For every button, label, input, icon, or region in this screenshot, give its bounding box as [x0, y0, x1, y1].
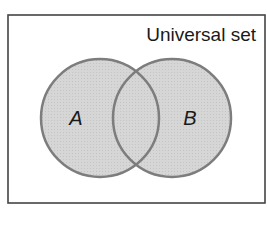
set-b-label: B — [183, 107, 196, 129]
set-a-label: A — [68, 107, 82, 129]
universal-set-label: Universal set — [146, 24, 257, 45]
venn-diagram: Universal set A B — [0, 0, 267, 230]
